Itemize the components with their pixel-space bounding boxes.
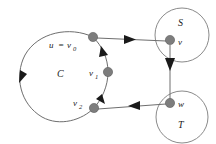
label-equals: = bbox=[58, 40, 64, 50]
edge-v0-to-v-arrowhead-icon bbox=[124, 35, 136, 44]
label-v1: v bbox=[89, 68, 93, 78]
label-set-t: T bbox=[178, 119, 185, 130]
label-set-s: S bbox=[178, 17, 183, 28]
label-node-w: w bbox=[178, 99, 184, 109]
edge-v-to-w-arrowhead-icon bbox=[165, 58, 175, 71]
diagram-canvas: u = v 0 C v 1 v 2 S v w T bbox=[0, 0, 216, 144]
edge-w-to-v2-arrowhead-icon bbox=[128, 101, 140, 110]
label-v2-subscript: 2 bbox=[79, 103, 83, 110]
node-v[interactable] bbox=[165, 35, 174, 44]
label-v1-subscript: 1 bbox=[95, 73, 98, 80]
label-v0: v bbox=[67, 40, 71, 50]
node-v1[interactable] bbox=[103, 67, 112, 76]
cycle-arrowhead-v1-v2-icon bbox=[96, 94, 105, 104]
label-node-v: v bbox=[178, 37, 182, 47]
node-w[interactable] bbox=[165, 98, 174, 107]
cycle-arrowhead-v0-v1-icon bbox=[99, 46, 108, 57]
node-v2[interactable] bbox=[89, 103, 98, 112]
graph-diagram: u = v 0 C v 1 v 2 S v w T bbox=[0, 0, 216, 144]
label-v0-subscript: 0 bbox=[73, 45, 77, 52]
label-u: u bbox=[49, 40, 54, 50]
label-cycle-c: C bbox=[57, 68, 64, 79]
cycle-arrowhead-left-icon bbox=[19, 70, 27, 83]
label-v2: v bbox=[73, 98, 77, 108]
node-v0[interactable] bbox=[88, 32, 97, 41]
